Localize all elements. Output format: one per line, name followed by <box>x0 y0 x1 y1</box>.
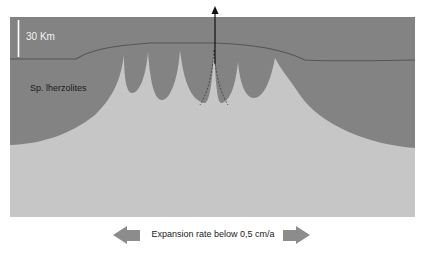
up-arrow-head <box>212 6 219 14</box>
expansion-rate-caption: Expansion rate below 0,5 cm/a <box>0 229 426 239</box>
scale-label: 30 Km <box>26 31 55 42</box>
rift-diagram <box>0 0 426 255</box>
rock-type-label: Sp. lherzolites <box>30 83 87 93</box>
